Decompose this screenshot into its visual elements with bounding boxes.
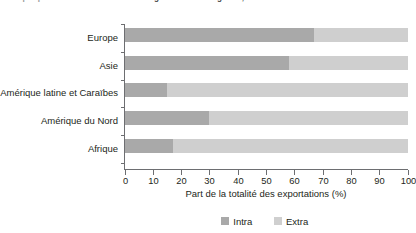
x-axis-tick-label: 80 [346, 176, 356, 186]
legend-label: Extra [286, 216, 309, 227]
bars-group [125, 28, 408, 153]
x-axis-tick-label: 50 [261, 176, 271, 186]
y-axis-tick-label: Amérique du Nord [41, 115, 118, 126]
y-axis-tick-label: Asie [100, 60, 118, 71]
y-axis-tick-label: Afrique [88, 143, 118, 154]
x-axis-tick-label: 30 [204, 176, 214, 186]
x-axis-tick-label: 100 [401, 176, 416, 186]
x-axis-tick-label: 0 [123, 176, 128, 186]
bar-segment [125, 56, 289, 70]
x-axis-ticks: 0102030405060708090100 [123, 170, 416, 187]
x-axis-tick-label: 70 [318, 176, 328, 186]
bar-segment [125, 83, 167, 97]
chart-legend: IntraExtra [221, 216, 309, 227]
chart-canvas: Europe Asie Amérique latine et Caraïbes … [0, 0, 416, 233]
legend-swatch [221, 217, 229, 225]
stacked-bar-chart: Europe Asie Amérique latine et Caraïbes … [0, 0, 416, 233]
bar-segment [125, 139, 173, 153]
y-axis-tick-label: Amérique latine et Caraïbes [0, 87, 118, 98]
legend-swatch [274, 217, 282, 225]
bar-segment [167, 83, 408, 97]
legend-label: Intra [233, 216, 253, 227]
y-axis-labels: Europe Asie Amérique latine et Caraïbes … [0, 32, 118, 154]
x-axis-tick-label: 20 [176, 176, 186, 186]
y-axis-tick-label: Europe [87, 32, 118, 43]
bar-segment [125, 111, 210, 125]
y-axis-ticks [121, 25, 125, 164]
x-axis-tick-label: 60 [289, 176, 299, 186]
bar-segment [209, 111, 407, 125]
x-axis-tick-label: 90 [374, 176, 384, 186]
x-axis-title: Part de la totalité des exportations (%) [185, 188, 346, 199]
x-axis-tick-label: 10 [148, 176, 158, 186]
bar-segment [314, 28, 407, 42]
bar-segment [173, 139, 408, 153]
bar-segment [125, 28, 315, 42]
x-axis-tick-label: 40 [233, 176, 243, 186]
bar-segment [289, 56, 408, 70]
